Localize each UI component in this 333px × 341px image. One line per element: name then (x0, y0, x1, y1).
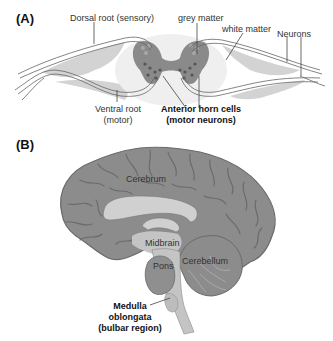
medulla-line1: Medulla (94, 301, 166, 311)
brain-illustration (0, 0, 333, 341)
cerebrum-label: Cerebrum (126, 174, 166, 184)
medulla-line2: oblongata (94, 312, 166, 322)
cerebellum-label: Cerebellum (182, 256, 228, 266)
midbrain-label: Midbrain (145, 238, 180, 248)
pons-label: Pons (153, 261, 174, 271)
medulla-label: Medulla oblongata (bulbar region) (94, 301, 166, 333)
figure: (A) Dorsal root (sensory) grey matter wh… (0, 0, 333, 341)
medulla-line3: (bulbar region) (94, 323, 166, 333)
